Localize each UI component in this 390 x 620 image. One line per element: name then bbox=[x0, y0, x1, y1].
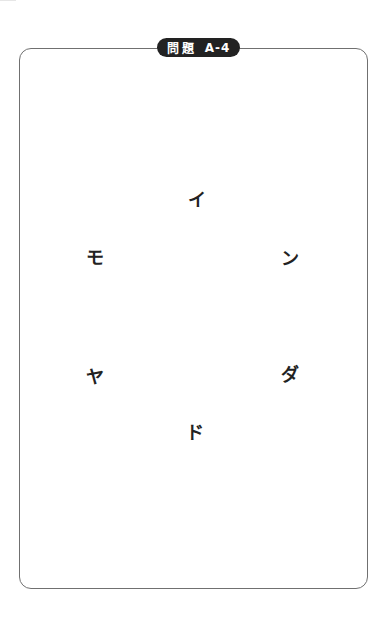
problem-label-code: A-4 bbox=[205, 41, 231, 55]
kana-char-2: モ bbox=[80, 241, 110, 271]
problem-label-kanji: 問題 bbox=[167, 39, 197, 56]
kana-char-1: イ bbox=[182, 183, 212, 213]
puzzle-frame bbox=[19, 48, 368, 589]
kana-char-6: ド bbox=[180, 416, 210, 446]
kana-char-5: ダ bbox=[275, 358, 305, 388]
problem-label-badge: 問題 A-4 bbox=[157, 38, 240, 57]
top-edge-mark bbox=[0, 0, 16, 1]
kana-char-4: ヤ bbox=[80, 360, 110, 390]
kana-char-3: ン bbox=[275, 242, 305, 272]
